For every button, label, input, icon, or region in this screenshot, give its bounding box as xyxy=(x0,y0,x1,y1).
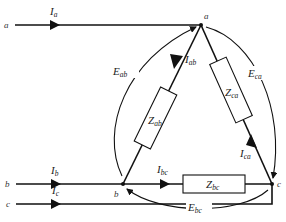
line-a-label: a xyxy=(4,20,9,30)
node-b-dot xyxy=(121,182,125,186)
node-a-label: a xyxy=(204,11,209,21)
line-a-current-arrow-icon xyxy=(50,20,60,30)
line-a: a Ia xyxy=(4,5,201,30)
line-a-current-label: Ia xyxy=(49,5,58,19)
line-b-label: b xyxy=(5,179,10,189)
branch-ab-impedance-box xyxy=(134,87,177,149)
branch-ab-current-label: Iab xyxy=(184,53,196,67)
node-a: a xyxy=(199,11,209,27)
branch-ab: Iab Zab Eab xyxy=(111,25,201,184)
delta-circuit-diagram: a Ia b Ib c Ic Iab Z xyxy=(0,0,286,222)
node-c-dot xyxy=(270,182,274,186)
branch-bc: Ibc Zbc Ebc xyxy=(127,163,268,215)
node-c-label: c xyxy=(277,179,281,189)
branch-bc-current-arrow-icon xyxy=(160,179,170,189)
line-c-current-label: Ic xyxy=(51,184,60,198)
line-c-label: c xyxy=(6,199,10,209)
branch-bc-current-label: Ibc xyxy=(156,163,168,177)
branch-ca-current-arrow-icon xyxy=(246,134,257,148)
node-a-dot xyxy=(199,23,203,27)
line-c-current-arrow-icon xyxy=(51,199,61,209)
node-b-label: b xyxy=(114,189,119,199)
line-b-current-label: Ib xyxy=(50,164,59,178)
branch-ca: Zca Ica Eca xyxy=(201,25,276,184)
branch-ca-current-label: Ica xyxy=(239,147,251,161)
